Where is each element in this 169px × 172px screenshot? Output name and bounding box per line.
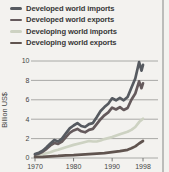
trade-line-chart: 02468101970198019901998Billion US$ — [0, 55, 169, 172]
legend-label: Developing world exports — [26, 39, 116, 47]
legend-label: Developing world imports — [26, 28, 117, 36]
y-tick-label: 10 — [22, 57, 30, 64]
y-tick-label: 4 — [26, 116, 30, 123]
x-tick-label: 1998 — [135, 163, 151, 170]
x-tick-label: 1980 — [66, 163, 82, 170]
y-tick-label: 2 — [26, 135, 30, 142]
x-tick-label: 1990 — [104, 163, 120, 170]
page-border-line — [162, 0, 164, 172]
y-tick-label: 6 — [26, 96, 30, 103]
legend-label: Developed world exports — [26, 16, 114, 24]
developed-imports-line-swatch — [10, 7, 22, 10]
legend-item: Developed world imports — [0, 3, 160, 14]
developing-imports-line-swatch — [10, 30, 22, 33]
legend-item: Developing world exports — [0, 37, 160, 48]
y-tick-label: 8 — [26, 77, 30, 84]
y-tick-label: 0 — [26, 154, 30, 161]
legend-item: Developed world exports — [0, 14, 160, 25]
developed-exports-line-swatch — [10, 19, 22, 22]
developing-exports-line-swatch — [10, 42, 22, 45]
x-tick-label: 1970 — [27, 163, 43, 170]
y-axis-title: Billion US$ — [0, 92, 9, 128]
legend-item: Developing world imports — [0, 26, 160, 37]
chart-legend: Developed world imports Developed world … — [0, 3, 160, 49]
legend-label: Developed world imports — [26, 5, 114, 13]
